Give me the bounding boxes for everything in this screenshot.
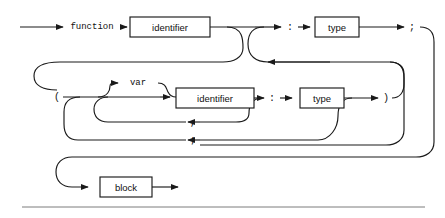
identifier-name-label: identifier bbox=[152, 22, 188, 33]
semicolon-forward-decl: ; bbox=[409, 22, 415, 33]
syntax-diagram-canvas: identifier type identifier type block fu… bbox=[0, 0, 445, 218]
colon-param-type: : bbox=[269, 93, 275, 104]
block-label: block bbox=[115, 182, 137, 193]
railroad-diagram: identifier type identifier type block fu… bbox=[0, 0, 445, 218]
right-paren: ) bbox=[383, 93, 389, 104]
box-param-type[interactable]: type bbox=[300, 88, 344, 108]
rparen-exit-up bbox=[390, 62, 404, 98]
punctuation-terminals: : ; ( : ) , ; bbox=[54, 22, 415, 146]
branch-up-to-var bbox=[98, 83, 118, 97]
keyword-var: var bbox=[130, 78, 146, 88]
colon-return-type: : bbox=[287, 22, 293, 33]
param-type-label: type bbox=[313, 93, 331, 104]
box-identifier-name[interactable]: identifier bbox=[130, 17, 210, 37]
keyword-function: function bbox=[70, 22, 113, 32]
comma-loop-left bbox=[94, 97, 186, 122]
param-identifier-label: identifier bbox=[197, 93, 233, 104]
semicolon-loop-left bbox=[64, 97, 186, 140]
comma-separator: , bbox=[190, 117, 196, 128]
return-type-label: type bbox=[328, 22, 346, 33]
semicolon-separator: ; bbox=[190, 135, 196, 146]
branch-down-from-var bbox=[158, 83, 176, 97]
left-paren: ( bbox=[54, 92, 60, 103]
box-block[interactable]: block bbox=[100, 177, 152, 197]
box-param-identifier[interactable]: identifier bbox=[176, 88, 254, 108]
box-return-type[interactable]: type bbox=[315, 17, 359, 37]
rail-into-block bbox=[56, 157, 100, 187]
nonterminal-boxes: identifier type identifier type block bbox=[100, 17, 359, 197]
